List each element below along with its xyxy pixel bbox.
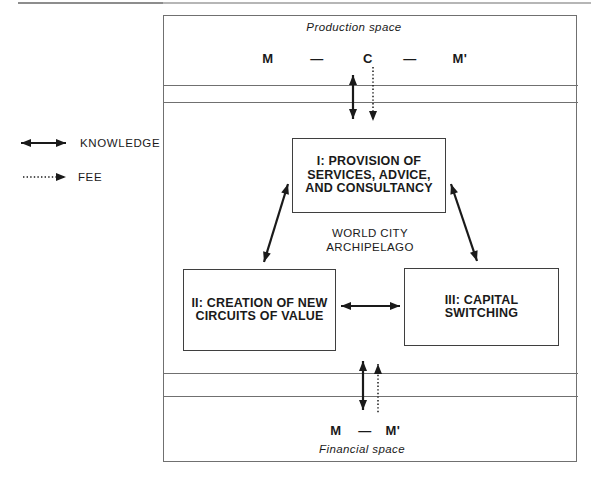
box-i-line-3: AND CONSULTANCY: [305, 182, 433, 196]
box-creation-of-new-circuits: II: CREATION OF NEW CIRCUITS OF VALUE: [183, 269, 336, 351]
diagram-page: KNOWLEDGE FEE Production space M — C — M…: [0, 0, 591, 477]
production-formula-dash-1: —: [310, 51, 324, 66]
box-capital-switching: III: CAPITAL SWITCHING: [404, 268, 559, 346]
box-ii-line-1: II: CREATION OF NEW: [191, 297, 327, 311]
financial-formula-dash: —: [358, 423, 372, 438]
world-city-line-2: ARCHIPELAGO: [326, 240, 413, 254]
box-i-line-2: SERVICES, ADVICE,: [307, 169, 431, 183]
box-i-line-1: I: PROVISION OF: [317, 155, 421, 169]
page-top-rule-light: [163, 2, 591, 4]
box-ii-line-2: CIRCUITS OF VALUE: [195, 310, 323, 324]
production-space-label: Production space: [306, 21, 401, 33]
legend-knowledge-label: KNOWLEDGE: [80, 137, 160, 149]
production-formula-m-prime: M': [453, 51, 468, 66]
production-formula-c: C: [363, 51, 373, 66]
box-provision-of-services: I: PROVISION OF SERVICES, ADVICE, AND CO…: [292, 138, 446, 213]
box-iii-line-1: III: CAPITAL: [445, 294, 519, 308]
legend-fee-label: FEE: [78, 171, 102, 183]
world-city-archipelago-label: WORLD CITY ARCHIPELAGO: [326, 226, 413, 254]
financial-formula-m: M: [330, 423, 341, 438]
financial-boundary-band: [163, 373, 578, 397]
production-boundary-band: [163, 85, 578, 103]
production-formula-dash-2: —: [403, 51, 417, 66]
financial-formula-m-prime: M': [386, 423, 401, 438]
page-top-rule-dark: [18, 2, 163, 4]
box-iii-line-2: SWITCHING: [445, 307, 518, 321]
financial-space-label: Financial space: [319, 443, 405, 455]
production-formula-m: M: [262, 51, 273, 66]
world-city-line-1: WORLD CITY: [326, 226, 413, 240]
